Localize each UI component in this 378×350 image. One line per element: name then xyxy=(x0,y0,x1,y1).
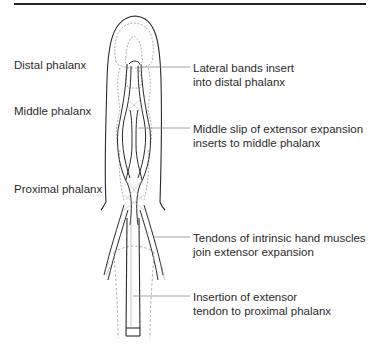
label-intrinsic-tendons-line1: Tendons of intrinsic hand muscles xyxy=(193,231,366,245)
label-lateral-bands-line2: into distal phalanx xyxy=(193,75,294,89)
label-insertion: Insertion of extensor tendon to proximal… xyxy=(193,290,331,318)
label-intrinsic-tendons: Tendons of intrinsic hand muscles join e… xyxy=(193,231,366,259)
label-middle-slip-line2: inserts to middle phalanx xyxy=(193,136,363,150)
label-middle-slip: Middle slip of extensor expansion insert… xyxy=(193,122,363,150)
label-lateral-bands: Lateral bands insert into distal phalanx xyxy=(193,61,294,89)
label-intrinsic-tendons-line2: join extensor expansion xyxy=(193,245,366,259)
label-distal-phalanx: Distal phalanx xyxy=(14,58,86,72)
middle-phalanx-bone xyxy=(116,68,151,200)
label-insertion-line1: Insertion of extensor xyxy=(193,290,331,304)
label-middle-phalanx: Middle phalanx xyxy=(14,104,91,118)
label-proximal-phalanx: Proximal phalanx xyxy=(14,182,102,196)
proximal-phalanx-bone xyxy=(114,246,154,338)
distal-phalanx-bone xyxy=(125,36,142,88)
fibres xyxy=(124,100,144,210)
label-lateral-bands-line1: Lateral bands insert xyxy=(193,61,294,75)
label-middle-slip-line1: Middle slip of extensor expansion xyxy=(193,122,363,136)
intrinsic-tendons xyxy=(104,205,163,280)
label-insertion-line2: tendon to proximal phalanx xyxy=(193,304,331,318)
finger-outline xyxy=(101,16,165,210)
extensor-expansion xyxy=(117,61,150,225)
extensor-tendon xyxy=(126,218,140,336)
